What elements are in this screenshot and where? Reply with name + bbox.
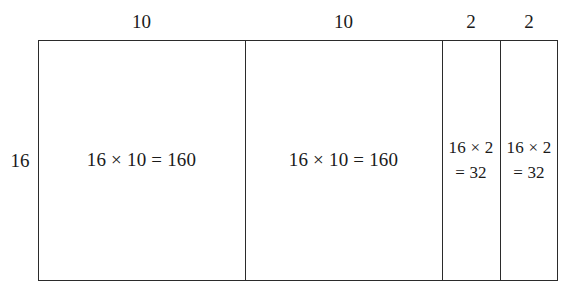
cell-col4: 16 × 2 = 32 bbox=[500, 40, 558, 281]
cell-col1-text: 16 × 10 = 160 bbox=[87, 147, 197, 173]
cell-col2-line1: 16 × 10 = 160 bbox=[289, 149, 399, 170]
top-label-col1: 10 bbox=[38, 9, 245, 35]
cell-col4-text: 16 × 2 = 32 bbox=[507, 136, 552, 184]
area-model-diagram: 10 10 2 2 16 16 × 10 = 160 16 × 10 = 160… bbox=[0, 0, 571, 299]
cell-col3-line2: = 32 bbox=[449, 161, 494, 185]
cell-col2: 16 × 10 = 160 bbox=[245, 40, 442, 281]
cell-col3-text: 16 × 2 = 32 bbox=[449, 136, 494, 184]
cell-col4-line2: = 32 bbox=[507, 161, 552, 185]
top-label-col4: 2 bbox=[500, 9, 558, 35]
cell-col1: 16 × 10 = 160 bbox=[38, 40, 245, 281]
top-label-col3: 2 bbox=[442, 9, 500, 35]
top-label-col2: 10 bbox=[245, 9, 442, 35]
cell-col4-line1: 16 × 2 bbox=[507, 138, 552, 157]
cell-col3-line1: 16 × 2 bbox=[449, 138, 494, 157]
cell-col2-text: 16 × 10 = 160 bbox=[289, 147, 399, 173]
cell-col3: 16 × 2 = 32 bbox=[442, 40, 500, 281]
side-label-height: 16 bbox=[6, 148, 34, 174]
cell-col1-line1: 16 × 10 = 160 bbox=[87, 149, 197, 170]
